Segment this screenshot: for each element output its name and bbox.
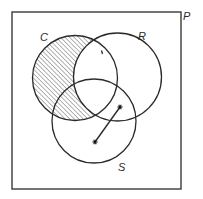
shaded-region-c-minus-r bbox=[0, 0, 203, 199]
set-r-label: R bbox=[138, 30, 146, 42]
set-s-label: S bbox=[118, 161, 126, 173]
set-c-label: C bbox=[40, 31, 48, 43]
venn-diagram: P C R S bbox=[0, 0, 203, 199]
universe-label-p: P bbox=[183, 10, 191, 22]
